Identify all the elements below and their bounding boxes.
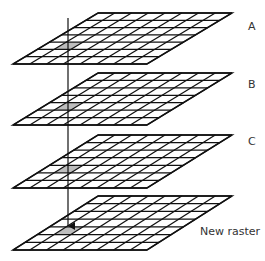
raster-layer-d xyxy=(13,196,232,250)
layer-label-a: A xyxy=(248,20,256,33)
raster-overlay-diagram: ABCNew raster xyxy=(0,0,265,261)
layer-label-b: B xyxy=(248,78,256,91)
layer-label-d: New raster xyxy=(200,225,261,238)
raster-layer-b xyxy=(13,73,232,125)
raster-layer-c xyxy=(13,135,232,188)
layer-label-c: C xyxy=(248,135,256,148)
raster-layer-a xyxy=(13,13,232,64)
raster-layers xyxy=(13,13,232,250)
